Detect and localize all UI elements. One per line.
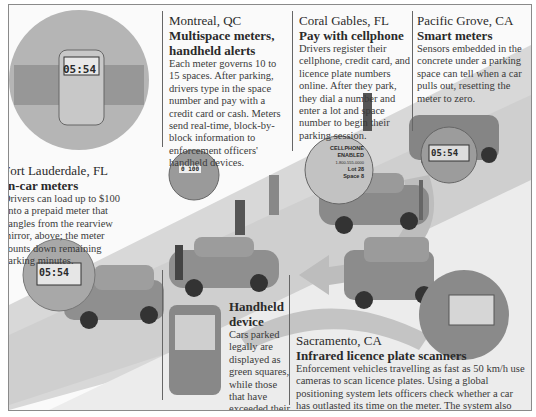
in-car-meter-illustration [9,10,149,150]
section-body: Enforcement vehicles travelling as fast … [296,363,528,411]
bubble-line: 1-800-555-0000 [314,159,364,166]
divider [162,11,163,147]
section-heading: Multispace meters, handheld alerts [169,28,289,58]
section-heading: Infrared licence plate scanners [296,348,528,363]
section-heading: Handheld device [229,299,293,329]
divider [162,270,163,400]
divider [292,11,293,151]
section-body: Cars parked legally are displayed as gre… [229,329,293,411]
in-car-meter-display: 05:54 [63,63,96,76]
enforcement-officer [175,245,183,280]
section-body: Each meter governs 10 to 15 spaces. Afte… [169,58,289,170]
bubble-line: Space 8 [314,173,364,180]
section-heading: In-car meters [8,178,133,193]
section-city: Sacramento, CA [296,333,528,348]
section-fort-lauderdale: Fort Lauderdale, FL In-car meters Driver… [8,163,133,267]
handheld-device-illustration [169,305,221,395]
bubble-line: ENABLED [314,152,364,159]
section-city: Montreal, QC [169,13,289,28]
infographic-frame: Montreal, QC Multispace meters, handheld… [8,4,532,411]
section-city: Pacific Grove, CA [417,13,529,28]
smart-meter-display: 05:54 [431,148,458,158]
cellphone-bubble: CELLPHONE ENABLED 1-800-555-0000 Lot 28 … [314,145,364,180]
section-pacific-grove: Pacific Grove, CA Smart meters Sensors e… [417,13,529,105]
bubble-line: Lot 28 [314,166,364,173]
section-coral-gables: Coral Gables, FL Pay with cellphone Driv… [299,13,411,142]
section-handheld: Handheld device Cars parked legally are … [229,299,293,411]
section-body: Drivers register their cellphone, credit… [299,43,411,142]
section-heading: Pay with cellphone [299,28,411,43]
section-body: Sensors embedded in the concrete under a… [417,43,529,105]
section-body: Drivers can load up to $100 onto a prepa… [8,193,133,267]
section-city: Coral Gables, FL [299,13,411,28]
callout-meter-display: 05:54 [39,267,69,278]
section-montreal: Montreal, QC Multispace meters, handheld… [169,13,289,170]
section-heading: Smart meters [417,28,529,43]
bubble-line: CELLPHONE [314,145,364,152]
person-at-meter [235,200,245,235]
section-sacramento: Sacramento, CA Infrared licence plate sc… [296,333,528,411]
multispace-meter-display: 0 100 [181,165,199,172]
divider [412,11,413,131]
section-city: Fort Lauderdale, FL [8,163,133,178]
